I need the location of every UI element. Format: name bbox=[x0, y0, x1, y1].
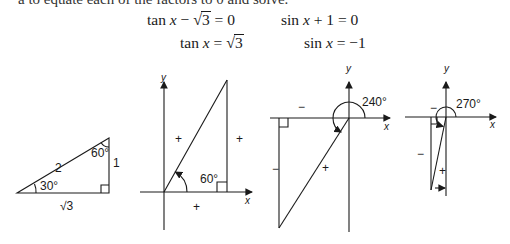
angle-label: 270° bbox=[456, 97, 481, 111]
y-axis-label: y bbox=[443, 63, 450, 74]
adjacent-label: √3 bbox=[60, 199, 74, 213]
angle-label: 60° bbox=[200, 172, 218, 186]
sign-label: + bbox=[193, 200, 200, 214]
sign-label: − bbox=[298, 100, 305, 114]
figures-canvas: 2 60° 1 30° √3 y x + + + 60° y x 240° − … bbox=[0, 0, 510, 244]
sign-label: + bbox=[175, 132, 182, 146]
angle-label: 240° bbox=[362, 95, 387, 109]
angle-30-label: 30° bbox=[40, 179, 58, 193]
quadrant-diagram-270 bbox=[405, 82, 496, 196]
x-axis-label: x bbox=[244, 195, 251, 206]
y-axis-label: y bbox=[160, 72, 167, 83]
x-axis-label: x bbox=[383, 121, 390, 132]
sign-label: + bbox=[322, 161, 329, 175]
angle-60-label: 60° bbox=[91, 146, 109, 160]
opposite-label: 1 bbox=[113, 156, 120, 170]
sign-label: + bbox=[236, 132, 243, 146]
sign-label: − bbox=[430, 101, 437, 115]
hypotenuse-label: 2 bbox=[55, 161, 62, 175]
sign-label: + bbox=[439, 164, 446, 178]
sign-label: − bbox=[272, 162, 279, 176]
y-axis-label: y bbox=[345, 63, 352, 74]
sign-label: − bbox=[417, 147, 424, 161]
x-axis-label: x bbox=[489, 119, 496, 130]
